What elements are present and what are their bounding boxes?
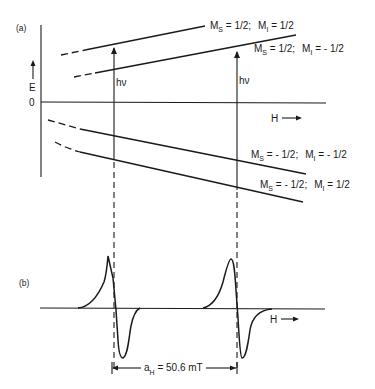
spectrum-baseline: [40, 308, 325, 309]
svg-text:H: H: [270, 314, 277, 325]
panel-a: (a) E 0 H MS = 1/2;MI = 1/2: [16, 20, 350, 202]
svg-text:MS = 1/2;MI = 1/2: MS = 1/2;MI = 1/2: [210, 20, 294, 33]
svg-text:H: H: [271, 113, 278, 124]
svg-text:MS = 1/2;MI = - 1/2: MS = 1/2;MI = - 1/2: [254, 43, 344, 56]
field-axis-label-a: H: [271, 113, 302, 124]
panel-b-label: (b): [19, 278, 30, 288]
transition-arrow-2: hν: [237, 52, 250, 190]
transition-arrow-1: hν: [114, 48, 127, 160]
h-nu-label-2: hν: [239, 75, 250, 86]
h-nu-label-1: hν: [116, 77, 127, 88]
hyperfine-splitting-annotation: aH = 50.6 mT: [112, 362, 237, 376]
zero-energy-line: [41, 102, 326, 103]
svg-text:MS = - 1/2;MI = - 1/2: MS = - 1/2;MI = - 1/2: [251, 149, 347, 162]
derivative-line-1: [78, 256, 140, 358]
svg-text:MS = - 1/2;MI = 1/2: MS = - 1/2;MI = 1/2: [260, 179, 350, 192]
up-arrowhead-icon: [31, 60, 36, 66]
energy-level-ms-minus-mi-minus: MS = - 1/2;MI = - 1/2: [48, 120, 347, 174]
energy-axis-label: E: [29, 60, 36, 93]
zero-label: 0: [29, 97, 35, 108]
field-axis-label-b: H: [270, 314, 299, 325]
epr-hyperfine-diagram: (a) E 0 H MS = 1/2;MI = 1/2: [0, 0, 375, 389]
panel-b: (b) H aH = 50.6 mT: [19, 256, 325, 376]
svg-text:E: E: [29, 82, 36, 93]
panel-a-label: (a): [16, 23, 27, 33]
splitting-label: aH = 50.6 mT: [144, 362, 203, 376]
